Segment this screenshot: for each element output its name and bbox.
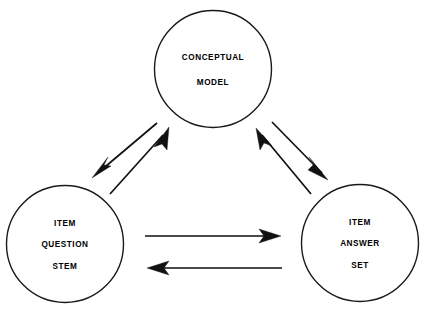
- item-answer-set-label-line2: ANSWER: [340, 239, 380, 248]
- arrow-item-question-stem-to-item-answer-set: [145, 229, 281, 243]
- arrow-conceptual-model-to-item-answer-set: [272, 122, 328, 180]
- conceptual-model-label-line2: MODEL: [197, 78, 229, 87]
- item-question-stem-label-line1: ITEM: [54, 219, 76, 228]
- item-question-stem-label-line3: STEM: [53, 262, 78, 271]
- arrow-item-answer-set-to-conceptual-model: [256, 128, 311, 194]
- diagram-svg: CONCEPTUAL MODEL ITEM QUESTION STEM ITEM…: [0, 0, 426, 311]
- item-answer-set-label-line1: ITEM: [349, 218, 371, 227]
- arrow-head-down-right: [308, 157, 328, 180]
- arrow-head-down-left: [92, 157, 111, 178]
- item-question-stem-label-line2: QUESTION: [41, 240, 88, 249]
- arrow-head-up-left: [256, 128, 272, 150]
- item-answer-set-label-line3: SET: [351, 261, 369, 270]
- diagram-canvas: CONCEPTUAL MODEL ITEM QUESTION STEM ITEM…: [0, 0, 426, 311]
- arrow-shaft: [99, 123, 157, 172]
- arrow-head-up-right: [154, 127, 169, 150]
- arrow-shaft: [110, 135, 163, 194]
- item-answer-set-node[interactable]: ITEM ANSWER SET: [302, 185, 419, 302]
- arrow-item-answer-set-to-item-question-stem: [147, 261, 282, 275]
- arrow-conceptual-model-to-item-question-stem: [92, 123, 157, 178]
- conceptual-model-node[interactable]: CONCEPTUAL MODEL: [155, 11, 272, 128]
- conceptual-model-circle[interactable]: [155, 11, 272, 128]
- conceptual-model-label-line1: CONCEPTUAL: [182, 53, 244, 62]
- item-question-stem-node[interactable]: ITEM QUESTION STEM: [7, 186, 124, 303]
